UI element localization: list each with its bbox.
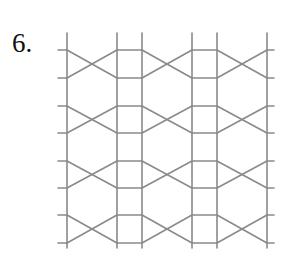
lattice-diagram xyxy=(0,0,291,257)
